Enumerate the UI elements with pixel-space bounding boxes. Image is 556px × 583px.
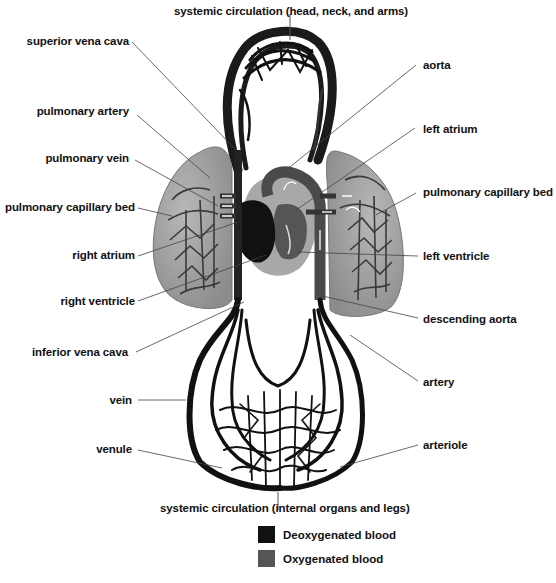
deoxygenated-swatch [258,526,275,543]
label-systemic-circulation-top: systemic circulation (head, neck, and ar… [174,4,408,18]
legend-oxygenated: Oxygenated blood [258,550,383,567]
label-pulmonary-vein: pulmonary vein [45,151,129,165]
label-pulmonary-capillary-bed-right: pulmonary capillary bed [423,185,553,199]
label-arteriole: arteriole [423,438,467,452]
circulatory-system-diagram [0,0,556,583]
label-superior-vena-cava: superior vena cava [27,34,129,48]
legend-label-deoxygenated: Deoxygenated blood [283,529,396,541]
label-systemic-circulation-bottom: systemic circulation (internal organs an… [160,501,410,515]
label-right-atrium: right atrium [72,248,135,262]
label-left-ventricle: left ventricle [423,249,489,263]
oxygenated-swatch [258,550,275,567]
label-right-ventricle: right ventricle [60,294,135,308]
upper-systemic-circulation [227,31,332,170]
label-vein: vein [109,393,132,407]
legend-label-oxygenated: Oxygenated blood [283,553,383,565]
label-pulmonary-capillary-bed-left: pulmonary capillary bed [5,200,135,214]
label-left-atrium: left atrium [423,122,478,136]
label-venule: venule [96,442,132,456]
left-lung [326,151,403,316]
label-descending-aorta: descending aorta [423,312,517,326]
label-artery: artery [423,375,454,389]
label-pulmonary-artery: pulmonary artery [37,104,129,118]
legend-deoxygenated: Deoxygenated blood [258,526,396,543]
lower-systemic-circulation [190,300,363,488]
label-inferior-vena-cava: inferior vena cava [32,345,128,359]
label-aorta: aorta [423,58,451,72]
